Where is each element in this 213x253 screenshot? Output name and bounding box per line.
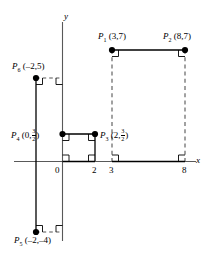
y-axis-label: y — [64, 12, 68, 21]
point-coord-p2: (8,7) — [174, 31, 191, 41]
right-angle-marker-y5 — [56, 78, 63, 85]
point-p6 — [33, 75, 39, 81]
point-sub-p1: 1 — [104, 37, 107, 43]
point-label-p4: P4 (0,32) — [11, 128, 39, 142]
point-coord-p1: (3,7) — [109, 31, 126, 41]
point-p3 — [92, 131, 98, 137]
tick-label-2: 2 — [92, 166, 97, 175]
point-sub-p4: 4 — [17, 136, 20, 142]
tick-label-8: 8 — [182, 166, 187, 175]
point-sub-p5: 5 — [20, 241, 23, 247]
right-angle-marker-x2 — [89, 155, 96, 162]
point-coord-p4: (0,32) — [22, 130, 39, 140]
point-sub-p6: 6 — [18, 67, 21, 73]
point-label-p6: P6 (–2,5) — [12, 62, 45, 73]
point-p2 — [182, 47, 188, 53]
point-p1 — [109, 47, 115, 53]
point-sub-p3: 3 — [106, 136, 109, 142]
p3-coord-post: ) — [125, 130, 128, 140]
point-label-p2: P2 (8,7) — [163, 32, 191, 43]
right-angle-marker-origin-upper — [63, 155, 70, 162]
right-angle-marker-x3 — [112, 155, 119, 162]
right-angle-marker-x8 — [179, 155, 186, 162]
p3-coord-pre: (2, — [111, 130, 121, 140]
point-label-p5: P5 (–2,–4) — [14, 236, 51, 247]
x-axis-label: x — [196, 156, 200, 165]
tick-label-0: 0 — [55, 166, 60, 175]
p4-coord-pre: (0, — [22, 130, 32, 140]
point-sub-p2: 2 — [169, 37, 172, 43]
p4-coord-post: ) — [36, 130, 39, 140]
point-coord-p6: (–2,5) — [23, 61, 45, 71]
point-coord-p3: (2,32) — [111, 130, 128, 140]
point-coord-p5: (–2,–4) — [25, 235, 51, 245]
coordinate-plane-figure: x y 0 2 3 8 P1 (3,7) P2 (8,7) P3 (2,32) … — [0, 0, 213, 253]
right-angle-marker-y-neg4 — [56, 226, 63, 233]
point-label-p3: P3 (2,32) — [100, 128, 128, 142]
point-p4 — [59, 131, 65, 137]
point-label-p1: P1 (3,7) — [98, 32, 126, 43]
tick-label-3: 3 — [109, 166, 114, 175]
